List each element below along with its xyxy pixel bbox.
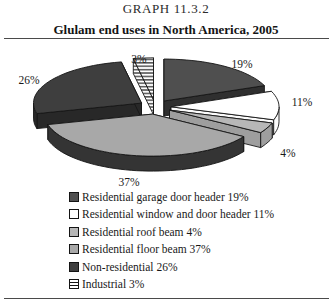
legend-item-industrial: Industrial 3% [69, 276, 274, 294]
legend-swatch-residential-floor-beam [69, 244, 79, 254]
legend-item-residential-roof-beam: Residential roof beam 4% [69, 223, 274, 241]
legend-label: Residential window and door header 11% [82, 208, 274, 220]
legend-swatch-residential-garage-door-header [69, 192, 79, 202]
legend-item-non-residential: Non-residential 26% [69, 258, 274, 276]
legend-swatch-residential-window-and-door-header [69, 209, 79, 219]
legend-item-residential-window-and-door-header: Residential window and door header 11% [69, 206, 274, 224]
legend-swatch-non-residential [69, 262, 79, 272]
legend-item-residential-garage-door-header: Residential garage door header 19% [69, 188, 274, 206]
chart-legend: Residential garage door header 19%Reside… [69, 188, 274, 293]
legend-swatch-residential-roof-beam [69, 227, 79, 237]
slice-callout-residential-garage-door-header: 19% [231, 58, 253, 70]
slice-callout-non-residential: 26% [18, 74, 40, 86]
legend-label: Residential garage door header 19% [82, 191, 249, 203]
slice-callout-industrial: 3% [131, 53, 147, 65]
legend-label: Industrial 3% [82, 278, 144, 290]
slice-callout-residential-floor-beam: 37% [118, 176, 140, 188]
legend-label: Residential roof beam 4% [82, 226, 202, 238]
bottom-divider [4, 298, 329, 299]
glulam-pie-figure: GRAPH 11.3.2 Glulam end uses in North Am… [0, 0, 332, 307]
legend-label: Non-residential 26% [82, 261, 178, 273]
slice-callout-residential-roof-beam: 4% [280, 147, 296, 159]
legend-label: Residential floor beam 37% [82, 243, 211, 255]
legend-item-residential-floor-beam: Residential floor beam 37% [69, 241, 274, 259]
slice-callout-residential-window-and-door-header: 11% [292, 96, 313, 108]
legend-swatch-industrial [69, 279, 79, 289]
